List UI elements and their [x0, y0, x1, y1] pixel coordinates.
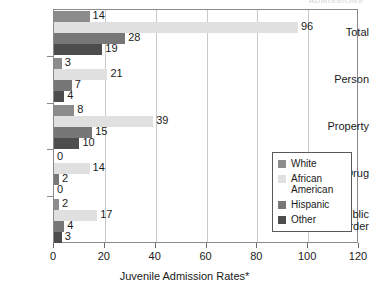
bar-value-label: 0 [57, 151, 63, 162]
x-axis-tick-label-0: 0 [33, 250, 73, 262]
bar-value-label: 8 [77, 104, 83, 115]
bar-property-other [54, 138, 79, 149]
legend-item-white[interactable]: White [278, 158, 351, 169]
x-axis-tick-100 [307, 243, 308, 248]
bar-public-order-african-american [54, 210, 97, 221]
bar-value-label: 4 [67, 90, 73, 101]
legend-item-label: White [291, 158, 317, 169]
x-axis-tick-120 [358, 243, 359, 248]
bar-value-label: 39 [156, 115, 168, 126]
y-axis-label-total: Total [319, 26, 369, 38]
legend-swatch-icon [278, 201, 286, 209]
bar-value-label: 17 [100, 209, 112, 220]
bar-value-label: 21 [110, 68, 122, 79]
bar-value-label: 19 [105, 43, 117, 54]
bar-value-label: 0 [57, 184, 63, 195]
bar-value-label: 10 [82, 137, 94, 148]
bar-total-white [54, 11, 90, 22]
x-axis-tick-0 [53, 243, 54, 248]
bar-total-other [54, 44, 102, 55]
x-axis-tick-label-80: 80 [236, 250, 276, 262]
x-axis-tick-label-100: 100 [287, 250, 327, 262]
bar-person-other [54, 91, 64, 102]
x-axis-tick-label-120: 120 [338, 250, 374, 262]
y-axis-label-person: Person [319, 73, 369, 85]
x-axis-tick-20 [104, 243, 105, 248]
legend-swatch-icon [278, 175, 286, 183]
legend-swatch-icon [278, 160, 286, 168]
bar-public-order-other [54, 232, 62, 243]
bar-value-label: 28 [128, 32, 140, 43]
bar-person-white [54, 58, 62, 69]
bar-property-white [54, 105, 74, 116]
bar-drug-african-american [54, 163, 90, 174]
gridline-x-40 [156, 10, 157, 242]
legend-item-label: African American [291, 173, 351, 195]
y-axis-label-line: Person [319, 73, 369, 85]
legend-item-other[interactable]: Other [278, 214, 351, 225]
bar-value-label: 3 [65, 231, 71, 242]
x-axis-tick-40 [155, 243, 156, 248]
x-axis-tick-60 [206, 243, 207, 248]
bar-value-label: 2 [62, 198, 68, 209]
legend: WhiteAfrican AmericanHispanicOther [272, 152, 352, 232]
y-axis-tick-4 [47, 196, 53, 197]
gridline-x-80 [257, 10, 258, 242]
bar-value-label: 7 [75, 79, 81, 90]
gridline-x-60 [207, 10, 208, 242]
legend-item-hispanic[interactable]: Hispanic [278, 199, 351, 210]
bar-value-label: 4 [67, 220, 73, 231]
bar-value-label: 14 [93, 10, 105, 21]
bar-total-african-american [54, 22, 298, 33]
cut-off-header-text: ADMISSIONS [150, 0, 369, 5]
bar-public-order-white [54, 199, 59, 210]
y-axis-tick-1 [47, 56, 53, 57]
y-axis-tick-2 [47, 103, 53, 104]
x-axis-tick-label-20: 20 [84, 250, 124, 262]
bar-public-order-hispanic [54, 221, 64, 232]
y-axis-tick-3 [47, 149, 53, 150]
x-axis-title: Juvenile Admission Rates* [0, 270, 369, 282]
y-axis-label-property: Property [319, 120, 369, 132]
y-axis-label-line: Property [319, 120, 369, 132]
bar-value-label: 3 [65, 57, 71, 68]
y-axis-label-line: Total [319, 26, 369, 38]
bar-value-label: 14 [93, 162, 105, 173]
legend-item-label: Hispanic [291, 199, 329, 210]
legend-item-african-american[interactable]: African American [278, 173, 351, 195]
x-axis-tick-label-40: 40 [135, 250, 175, 262]
legend-item-label: Other [291, 214, 316, 225]
bar-value-label: 15 [95, 126, 107, 137]
x-axis-tick-label-60: 60 [186, 250, 226, 262]
x-axis-tick-80 [256, 243, 257, 248]
bar-value-label: 96 [301, 21, 313, 32]
legend-swatch-icon [278, 216, 286, 224]
